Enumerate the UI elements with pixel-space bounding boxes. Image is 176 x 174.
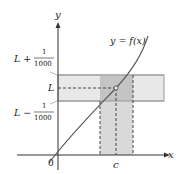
lower-bound-label-main: L −	[13, 107, 31, 118]
c-label: c	[113, 159, 119, 170]
upper-bound-label-num: 1	[42, 48, 46, 56]
lower-bound-label-num: 1	[42, 102, 46, 110]
lower-label-leader	[50, 101, 57, 104]
upper-label-leader	[50, 72, 57, 75]
vertical-delta-band	[100, 101, 133, 155]
x-axis-label: x	[168, 149, 174, 160]
curve-label: y = f(x)	[109, 35, 146, 46]
upper-bound-label-main: L +	[13, 53, 31, 64]
limit-point	[114, 86, 118, 90]
y-axis-label: y	[54, 9, 61, 20]
L-label: L	[47, 82, 54, 93]
epsilon-delta-diagram: y x 0 c y = f(x) L + 1 1000 L L − 1 1000	[0, 0, 176, 174]
upper-bound-label-den: 1000	[34, 60, 52, 68]
lower-bound-label-den: 1000	[34, 114, 52, 122]
diagram-canvas: y x 0 c y = f(x) L + 1 1000 L L − 1 1000	[0, 0, 176, 174]
y-axis-arrow-icon	[56, 22, 61, 28]
origin-label: 0	[48, 158, 54, 168]
